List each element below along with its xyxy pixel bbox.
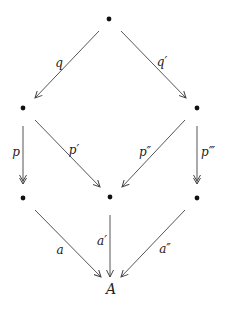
label-p-triple-prime: p‴ bbox=[201, 146, 215, 158]
node-top bbox=[107, 17, 112, 22]
arrow-a bbox=[35, 210, 101, 277]
node-bot-center bbox=[108, 195, 113, 200]
node-mid-right bbox=[195, 106, 200, 111]
label-p: p bbox=[12, 146, 20, 158]
label-a: a bbox=[56, 244, 63, 256]
label-q: q bbox=[55, 57, 63, 69]
arrow-q-prime bbox=[121, 31, 186, 98]
label-p-double-prime: p″ bbox=[139, 146, 151, 158]
diagram-canvas: q q′ p p′ p″ p‴ a a′ a″ A bbox=[0, 0, 228, 310]
arrow-a-double-prime bbox=[121, 210, 185, 277]
node-mid-left bbox=[21, 106, 26, 111]
label-p-prime: p′ bbox=[69, 144, 79, 156]
arrow-p-prime bbox=[35, 120, 100, 187]
label-a-prime: a′ bbox=[97, 235, 107, 247]
diagram-svg bbox=[0, 0, 228, 310]
node-bot-left bbox=[21, 196, 26, 201]
arrow-q bbox=[35, 31, 99, 98]
label-q-prime: q′ bbox=[157, 56, 167, 68]
label-a-double-prime: a″ bbox=[159, 243, 171, 255]
node-bot-right bbox=[195, 196, 200, 201]
node-A-label: A bbox=[106, 282, 116, 296]
arrow-p-double-prime bbox=[122, 120, 185, 187]
